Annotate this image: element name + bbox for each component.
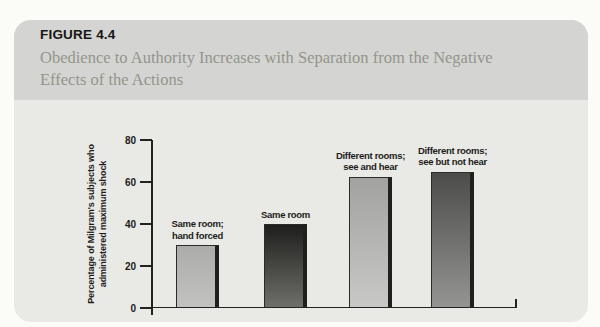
bar-label-1: Same room; hand forced: [138, 218, 258, 241]
bar-4: [431, 172, 474, 309]
bar-chart: Percentage of Milgram's subjects who adm…: [14, 20, 600, 327]
figure-card: FIGURE 4.4 Obedience to Authority Increa…: [14, 20, 588, 322]
bar-label-4: Different rooms; see but not hear: [393, 145, 513, 168]
bar-1: [176, 245, 219, 308]
y-axis-label: Percentage of Milgram's subjects who adm…: [85, 104, 109, 327]
y-axis-line: [151, 140, 153, 315]
y-tick-label: 80: [108, 134, 136, 147]
y-tick-label: 40: [108, 218, 136, 231]
y-tick-mark: [140, 265, 152, 267]
bar-label-2: Same room: [226, 209, 346, 221]
x-axis-line: [151, 307, 516, 309]
y-tick-mark: [140, 181, 152, 183]
y-tick-label: 60: [108, 176, 136, 189]
bar-2: [264, 224, 307, 308]
y-tick-mark: [140, 307, 152, 309]
x-axis-end-tick: [515, 299, 517, 308]
plot-area: 020406080Same room; hand forcedSame room…: [152, 140, 516, 308]
bar-3: [349, 177, 392, 308]
y-axis-label-line1: Percentage of Milgram's subjects who: [85, 104, 97, 327]
page-background: FIGURE 4.4 Obedience to Authority Increa…: [0, 0, 600, 327]
y-tick-label: 20: [108, 260, 136, 273]
y-tick-mark: [140, 139, 152, 141]
y-tick-label: 0: [108, 302, 136, 315]
